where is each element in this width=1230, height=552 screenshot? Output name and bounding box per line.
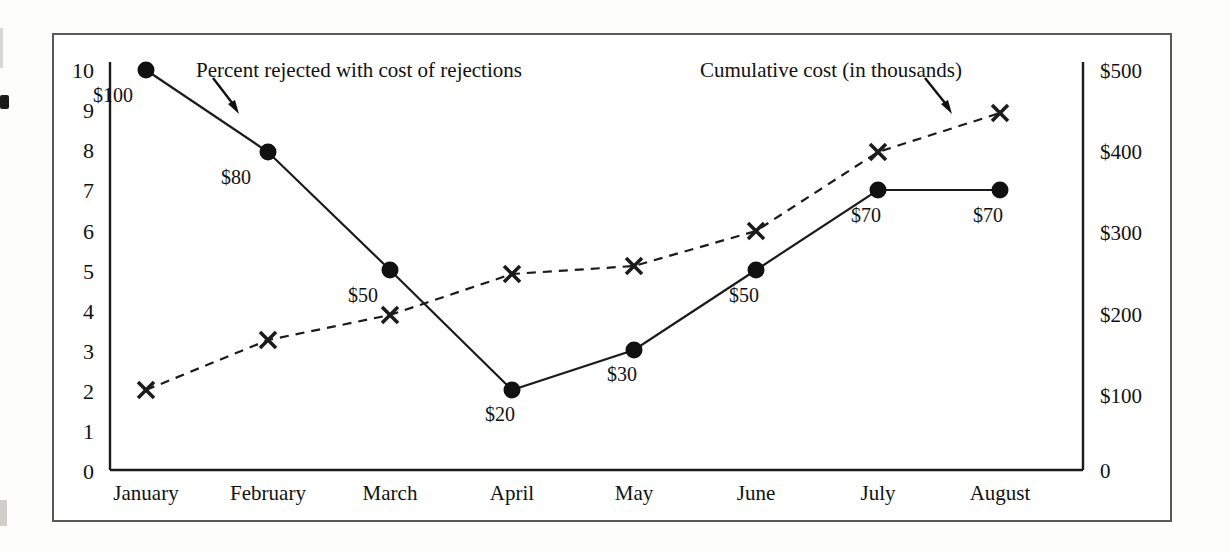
y-tick-right-300: $300: [1100, 223, 1170, 244]
y-tick-left-10: 10: [54, 60, 94, 82]
point-label-january: $100: [68, 85, 158, 105]
y-tick-right-400: $400: [1100, 142, 1170, 163]
annotation-cumulative-cost: Cumulative cost (in thousands): [700, 60, 962, 81]
point-label-june: $50: [699, 285, 789, 305]
y-tick-right-100: $100: [1100, 386, 1170, 407]
y-tick-left-2: 2: [54, 381, 94, 403]
point-march: [382, 262, 399, 279]
point-january: [138, 62, 155, 79]
x-marker-february: [260, 332, 276, 348]
point-label-april: $20: [455, 404, 545, 424]
point-label-august: $70: [943, 205, 1033, 225]
x-marker-june: [748, 223, 764, 239]
y-tick-right-500: $500: [1100, 61, 1170, 82]
y-tick-left-1: 1: [54, 421, 94, 443]
annotation-percent-rejected: Percent rejected with cost of rejections: [196, 60, 522, 81]
y-tick-left-4: 4: [54, 301, 94, 323]
x-marker-july: [870, 144, 886, 160]
y-tick-left-7: 7: [54, 180, 94, 202]
y-tick-left-5: 5: [54, 261, 94, 283]
y-tick-left-3: 3: [54, 341, 94, 363]
point-june: [748, 262, 765, 279]
point-label-february: $80: [191, 167, 281, 187]
point-august: [992, 182, 1009, 199]
y-tick-left-0: 0: [54, 461, 94, 483]
y-tick-left-8: 8: [54, 140, 94, 162]
point-july: [870, 182, 887, 199]
percent-rejected-line: [146, 70, 1000, 390]
x-marker-march: [382, 307, 398, 323]
y-tick-right-200: $200: [1100, 305, 1170, 326]
chart-plot: [0, 0, 1230, 552]
x-marker-august: [992, 105, 1008, 121]
chart-page: 10 9 8 7 6 5 4 3 2 1 0 $500 $400 $300 $2…: [0, 0, 1230, 552]
point-february: [260, 144, 277, 161]
x-tick-august: August: [925, 483, 1075, 504]
point-label-may: $30: [577, 364, 667, 384]
y-tick-left-6: 6: [54, 221, 94, 243]
x-marker-january: [138, 382, 154, 398]
y-tick-right-0: 0: [1100, 461, 1170, 482]
point-label-march: $50: [318, 285, 408, 305]
percent-rejected-markers: [138, 62, 1009, 399]
point-may: [626, 342, 643, 359]
annotation-arrow-cumulative: [925, 78, 952, 114]
point-april: [504, 382, 521, 399]
point-label-july: $70: [821, 205, 911, 225]
annotation-arrow-percent: [213, 78, 239, 114]
